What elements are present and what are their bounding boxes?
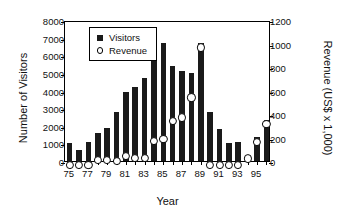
x-axis-tick-label: 85 bbox=[157, 168, 168, 179]
x-axis-tick-label: 83 bbox=[138, 168, 149, 179]
x-axis-tick-label: 77 bbox=[82, 168, 93, 179]
x-axis-tick-label: 89 bbox=[194, 168, 205, 179]
x-axis-tick-label: 75 bbox=[63, 168, 74, 179]
x-axis-tick-label: 79 bbox=[101, 168, 112, 179]
chart-figure: Number of Visitors Revenue (US$ x 1,000)… bbox=[0, 0, 337, 215]
x-axis-tick-label: 91 bbox=[213, 168, 224, 179]
x-axis-tick-label: 81 bbox=[120, 168, 131, 179]
x-axis-tick-labels: 7577798183858789919395 bbox=[0, 0, 337, 215]
x-axis-tick-label: 93 bbox=[232, 168, 243, 179]
x-axis-tick-label: 87 bbox=[176, 168, 187, 179]
x-axis-tick-label: 95 bbox=[251, 168, 262, 179]
